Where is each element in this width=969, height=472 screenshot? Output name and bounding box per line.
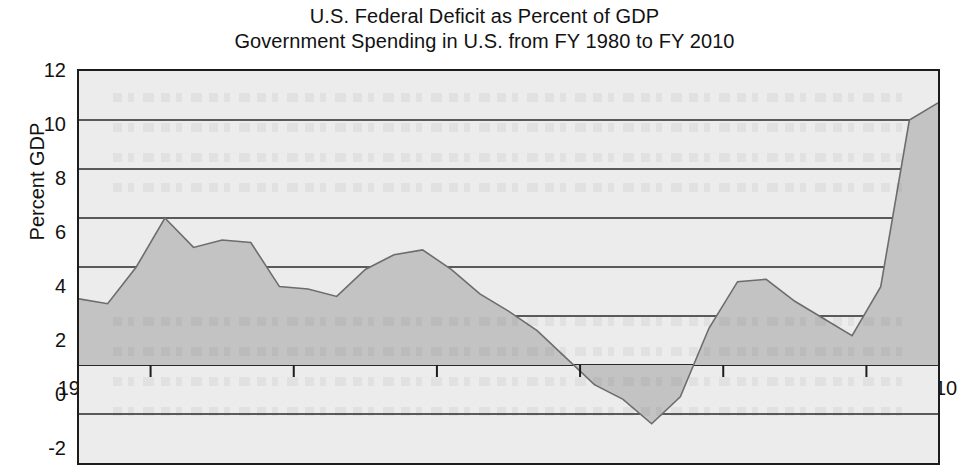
chart-svg (79, 71, 938, 463)
y-axis-tick-labels: 12 10 8 6 4 2 0 -2 -4 (16, 0, 66, 472)
y-tick-label: -2 (20, 438, 66, 458)
y-tick-label: 4 (20, 276, 66, 296)
y-tick-label: 6 (20, 222, 66, 242)
y-tick-label: 2 (20, 330, 66, 350)
x-minor-tickmarks (151, 365, 867, 377)
chart-title-line-1: U.S. Federal Deficit as Percent of GDP (0, 4, 969, 29)
chart-title: U.S. Federal Deficit as Percent of GDP G… (0, 4, 969, 54)
y-tick-label: 8 (20, 168, 66, 188)
chart-title-line-2: Government Spending in U.S. from FY 1980… (0, 29, 969, 54)
y-tick-label: 10 (20, 114, 66, 134)
area-fill-path (79, 103, 938, 424)
y-tick-label: 12 (20, 60, 66, 80)
chart-figure: U.S. Federal Deficit as Percent of GDP G… (0, 0, 969, 472)
plot-area (77, 69, 940, 465)
